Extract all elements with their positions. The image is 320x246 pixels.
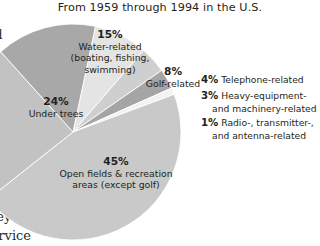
legend-item-radio-related: 1% Radio-, transmitter-, and antenna-rel… [201,117,320,141]
legend-item-telephone-related: 4% Telephone-related [201,74,320,87]
pie-label-trees-percent: 24% [14,95,98,108]
pie-label-open-percent: 45% [42,155,190,168]
pie-label-water-line2: (boating, fishing, [58,52,162,63]
pie-label-open-line1: Open fields & recreation [42,168,190,179]
pie-label-golf-line1: Golf-related [137,78,209,89]
pie-label-water-percent: 15% [58,28,162,41]
chart-title: From 1959 through 1994 in the U.S. [0,1,320,14]
chart-canvas: From 1959 through 1994 in the U.S. nd s … [0,0,320,246]
legend-telephone-label: Telephone-related [221,74,303,85]
pie-label-golf-percent: 8% [137,65,209,78]
legend-heavy-percent: 3% [201,90,218,101]
chart-legend: 4% Telephone-related 3% Heavy-equipment-… [201,74,320,145]
pie-label-under-trees: 24% Under trees [14,95,98,119]
pie-label-water-line1: Water-related [58,41,162,52]
legend-item-heavy-equipment-related: 3% Heavy-equipment- and machinery-relate… [201,90,320,114]
legend-radio-percent: 1% [201,117,218,128]
legend-heavy-label: Heavy-equipment- and machinery-related [212,90,317,114]
pie-label-open-line2: areas (except golf) [42,179,190,190]
legend-telephone-percent: 4% [201,74,218,85]
legend-radio-label: Radio-, transmitter-, and antenna-relate… [212,117,314,141]
pie-label-trees-line1: Under trees [14,108,98,119]
pie-label-open-fields: 45% Open fields & recreation areas (exce… [42,155,190,191]
pie-label-golf-related: 8% Golf-related [137,65,209,89]
